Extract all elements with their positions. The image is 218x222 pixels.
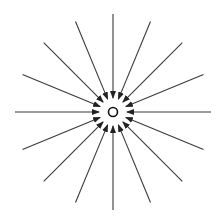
field-line-arrow (76, 22, 108, 100)
field-line-arrow (23, 117, 101, 149)
field-line-arrow (23, 75, 101, 107)
field-line-arrow (126, 75, 204, 107)
field-line-arrow (76, 125, 108, 203)
field-line-arrow (123, 43, 182, 102)
field-line-arrow (44, 43, 103, 102)
point-charge-icon (109, 108, 118, 117)
field-line-arrow (118, 22, 150, 100)
field-line-arrow (44, 122, 103, 181)
field-lines-diagram (0, 0, 218, 222)
field-lines (15, 14, 211, 210)
field-line-arrow (118, 125, 150, 203)
field-line-arrow (126, 117, 204, 149)
field-line-arrow (123, 122, 182, 181)
